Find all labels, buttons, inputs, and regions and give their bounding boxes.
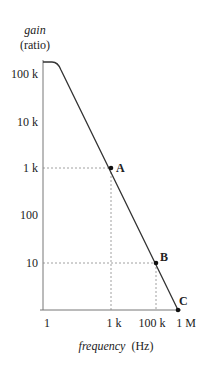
point-a-label: A — [116, 161, 125, 175]
y-tick-1k: 1 k — [23, 161, 38, 175]
y-tick-10: 10 — [26, 256, 38, 270]
gain-frequency-chart: A B C gain (ratio) 100 k 10 k 1 k 100 10… — [0, 0, 207, 375]
point-a-marker — [109, 166, 114, 171]
x-axis-title-text: frequency — [79, 339, 127, 353]
x-tick-1m: 1 M — [176, 316, 196, 330]
gain-curve — [43, 62, 178, 310]
x-axis-title: frequency (Hz) — [79, 339, 154, 353]
point-b-marker — [154, 261, 159, 266]
point-b-label: B — [160, 250, 168, 264]
guide-lines — [43, 168, 156, 310]
point-c-label: C — [179, 294, 188, 308]
x-tick-100k: 100 k — [139, 316, 166, 330]
point-c-marker — [176, 308, 181, 313]
y-tick-100k: 100 k — [11, 67, 38, 81]
y-axis-unit: (ratio) — [20, 38, 50, 52]
y-axis-title: gain — [24, 23, 45, 37]
x-tick-1k: 1 k — [107, 316, 122, 330]
y-tick-100: 100 — [20, 208, 38, 222]
x-axis-unit: (Hz) — [131, 339, 153, 353]
x-tick-1: 1 — [44, 316, 50, 330]
y-tick-10k: 10 k — [17, 115, 38, 129]
